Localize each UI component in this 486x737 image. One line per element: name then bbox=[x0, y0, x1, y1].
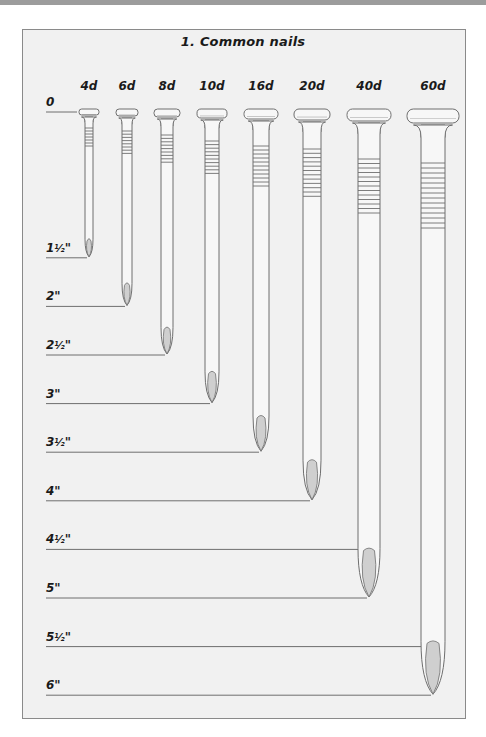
nail-head bbox=[244, 109, 278, 119]
nail-shank bbox=[161, 119, 173, 354]
nail-head bbox=[347, 109, 391, 121]
nail-neck bbox=[157, 119, 177, 126]
nail-20d bbox=[294, 109, 330, 500]
nail-60d bbox=[407, 109, 459, 694]
nail-neck bbox=[299, 122, 326, 132]
nails-group bbox=[79, 109, 459, 694]
nail-head bbox=[197, 109, 227, 118]
nail-neck bbox=[248, 121, 274, 130]
nail-6d bbox=[116, 109, 138, 305]
nail-shank bbox=[122, 118, 132, 305]
nail-8d bbox=[154, 109, 180, 354]
nail-shank bbox=[253, 121, 269, 451]
nail-neck bbox=[82, 117, 97, 122]
nail-neck bbox=[119, 118, 136, 124]
nail-4d bbox=[79, 109, 99, 257]
nail-shank bbox=[85, 117, 93, 257]
nail-16d bbox=[244, 109, 278, 451]
nail-head bbox=[407, 109, 459, 123]
nail-40d bbox=[347, 109, 391, 597]
nail-shank bbox=[358, 123, 380, 597]
nail-neck bbox=[201, 120, 224, 128]
nail-head bbox=[294, 109, 330, 120]
nail-10d bbox=[197, 109, 227, 403]
nail-shank bbox=[421, 125, 445, 694]
nail-neck bbox=[414, 125, 453, 138]
nail-head bbox=[154, 109, 180, 117]
nail-neck bbox=[353, 123, 386, 134]
nails-diagram bbox=[0, 0, 486, 737]
